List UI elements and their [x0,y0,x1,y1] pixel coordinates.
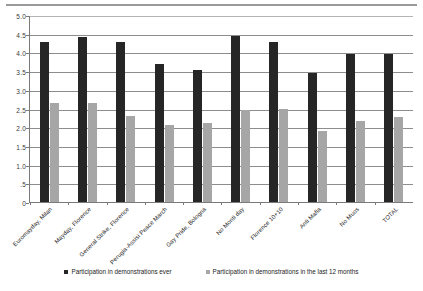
legend-label: Participation in demonstrations ever [71,269,171,275]
y-axis-tick-label: 2.0 [16,125,26,132]
bar-group [298,16,336,202]
y-axis-tick-mark [26,203,29,204]
legend-swatch-icon [64,270,68,274]
bar-group [107,16,145,202]
bar-group [375,16,413,202]
x-axis-category-label: Euromayday, Milan [12,206,53,247]
x-axis-label-cell: No Muos [337,205,375,263]
bar [394,117,403,202]
x-axis-label-cell: Anti Mafia [299,205,337,263]
bar [165,125,174,202]
legend-swatch-icon [206,270,210,274]
bar [384,54,393,202]
bar [88,103,97,202]
bar-group [68,16,106,202]
y-axis-tick-label: 4.0 [16,50,26,57]
x-axis-label-cell: Florence 10+10 [260,205,298,263]
bar-chart: 0.51.01.52.02.53.03.54.04.55.0 Euromayda… [0,0,423,291]
bar [193,70,202,202]
bar [231,36,240,202]
x-axis-label-cell: TOTAL [376,205,414,263]
y-axis-tick-label: 1.0 [16,162,26,169]
bar [126,116,135,202]
bar [155,64,164,202]
bar [318,131,327,202]
y-axis-tick-label: 1.5 [16,143,26,150]
y-axis-tick-label: 2.5 [16,106,26,113]
bar [40,42,49,202]
x-axis-labels: Euromayday, MilanMayday, FlorenceGeneral… [30,205,414,263]
bar [279,109,288,203]
bar [308,73,317,202]
bar-group [336,16,374,202]
y-axis-tick-label: 3.5 [16,69,26,76]
bar [116,42,125,202]
bar [346,54,355,202]
bar [356,121,365,202]
bar-groups [30,16,413,202]
bar [203,123,212,202]
bar [78,37,87,202]
bar-group [260,16,298,202]
bar-group [145,16,183,202]
chart-legend: Participation in demonstrations everPart… [0,269,423,275]
x-axis-category-label: Anti Mafia [298,206,322,230]
x-axis-category-label: No Muos [339,206,361,228]
bar [241,110,250,202]
y-axis-tick-label: 4.5 [16,31,26,38]
legend-label: Participation in demonstrations in the l… [213,269,359,275]
x-axis-category-label: TOTAL [381,206,399,224]
legend-item: Participation in demonstrations in the l… [206,269,359,275]
y-axis-tick-label: 3.0 [16,87,26,94]
x-axis-label-cell: Gay Pride, Bologna [184,205,222,263]
bar [269,42,278,202]
bar [50,103,59,202]
bar-group [221,16,259,202]
plot-area: 0.51.01.52.02.53.03.54.04.55.0 [29,16,413,203]
top-divider [6,4,417,6]
legend-item: Participation in demonstrations ever [64,269,171,275]
bar-group [30,16,68,202]
bar-group [183,16,221,202]
y-axis-tick-label: 5.0 [16,13,26,20]
